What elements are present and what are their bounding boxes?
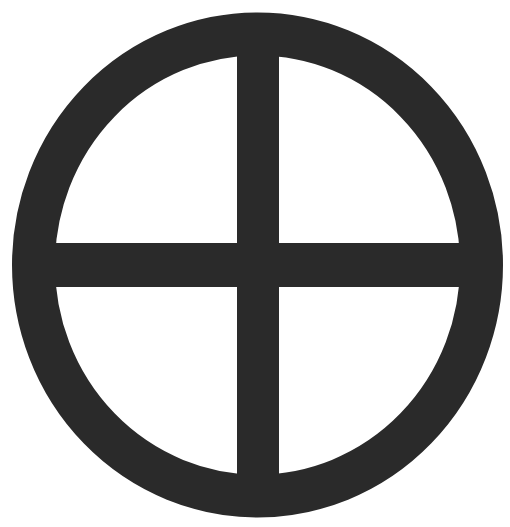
horizontal-bar — [30, 243, 485, 287]
symbol-canvas — [0, 0, 510, 527]
sun-cross-icon — [0, 0, 510, 527]
